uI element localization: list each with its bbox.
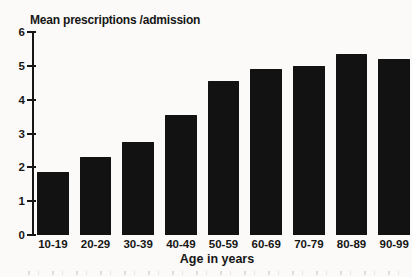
y-tick-label-0: 0 xyxy=(4,229,25,241)
bars-area xyxy=(37,32,410,235)
y-tick-label-4: 4 xyxy=(4,94,25,106)
bar-40-49 xyxy=(165,115,197,235)
y-tick-label-1: 1 xyxy=(4,195,25,207)
x-tick-label-40-49: 40-49 xyxy=(165,238,197,250)
x-tick-label-20-29: 20-29 xyxy=(80,238,112,250)
bar-30-39 xyxy=(122,142,154,235)
bar-90-99 xyxy=(378,59,410,235)
x-tick-label-70-79: 70-79 xyxy=(293,238,325,250)
bar-80-89 xyxy=(336,54,368,235)
y-tick-label-6: 6 xyxy=(4,26,25,38)
bar-50-59 xyxy=(208,81,240,235)
y-tick-mark-6 xyxy=(27,31,36,33)
x-tick-label-60-69: 60-69 xyxy=(250,238,282,250)
y-tick-mark-2 xyxy=(27,166,36,168)
y-tick-label-2: 2 xyxy=(4,161,25,173)
y-tick-mark-3 xyxy=(27,133,36,135)
y-tick-label-3: 3 xyxy=(4,128,25,140)
x-axis-title: Age in years xyxy=(37,252,397,266)
scan-artifact-line xyxy=(28,271,408,275)
x-tick-label-10-19: 10-19 xyxy=(37,238,69,250)
bar-20-29 xyxy=(80,157,112,235)
x-tick-label-90-99: 90-99 xyxy=(378,238,410,250)
y-tick-mark-5 xyxy=(27,65,36,67)
bar-70-79 xyxy=(293,66,325,235)
x-tick-label-50-59: 50-59 xyxy=(208,238,240,250)
bar-chart-figure: Mean prescriptions /admission 0123456 10… xyxy=(0,0,412,277)
y-tick-mark-1 xyxy=(27,200,36,202)
y-tick-label-5: 5 xyxy=(4,60,25,72)
x-axis-labels: 10-1920-2930-3940-4950-5960-6970-7980-89… xyxy=(37,238,410,250)
x-tick-label-30-39: 30-39 xyxy=(122,238,154,250)
x-tick-label-80-89: 80-89 xyxy=(336,238,368,250)
y-tick-mark-4 xyxy=(27,99,36,101)
y-tick-mark-0 xyxy=(27,234,36,236)
chart-title: Mean prescriptions /admission xyxy=(30,13,200,27)
bar-10-19 xyxy=(37,172,69,235)
bar-60-69 xyxy=(250,69,282,235)
